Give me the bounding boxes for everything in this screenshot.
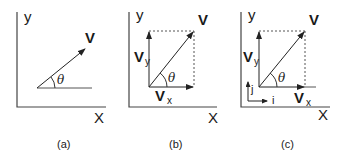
panel-c: j i y X V θ Vy Vx (c)	[241, 6, 330, 150]
component-y-label: Vy	[243, 48, 259, 67]
vector-v-label: V	[198, 11, 208, 28]
axis-x-label: X	[318, 106, 328, 123]
axis-y-label: y	[248, 6, 256, 23]
unit-j-label: j	[250, 83, 253, 95]
unit-i-label: i	[272, 94, 274, 106]
angle-arc	[270, 73, 277, 87]
component-y-label: Vy	[134, 48, 150, 67]
caption-a: (a)	[57, 138, 70, 150]
vector-components-diagram: y X V θ (a) y X V θ Vy Vx (b) j i	[0, 0, 341, 161]
caption-b: (b)	[169, 138, 182, 150]
component-x-label: Vx	[294, 89, 311, 108]
caption-c: (c)	[281, 138, 294, 150]
panel-b: y X V θ Vy Vx (b)	[129, 6, 218, 150]
axes	[17, 12, 106, 107]
axis-x-label: X	[94, 109, 104, 126]
angle-arc	[160, 73, 167, 87]
angle-arc	[51, 77, 55, 88]
angle-theta-label: θ	[278, 71, 286, 85]
axis-y-label: y	[136, 6, 144, 23]
component-x-label: Vx	[155, 87, 172, 106]
axis-y-label: y	[24, 8, 32, 25]
vector-v-label: V	[309, 11, 319, 28]
panel-a: y X V θ (a)	[17, 8, 106, 150]
angle-theta-label: θ	[168, 71, 176, 85]
angle-theta-label: θ	[57, 73, 65, 87]
axis-x-label: X	[208, 109, 218, 126]
vector-v-label: V	[85, 29, 95, 46]
